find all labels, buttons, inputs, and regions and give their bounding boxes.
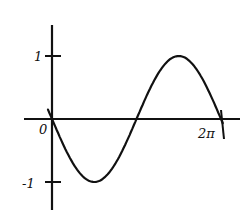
origin-label: 0 <box>39 122 47 137</box>
y-label-neg1: -1 <box>22 176 35 191</box>
x-label-2pi: 2π <box>197 126 215 141</box>
x-tick-2pi <box>221 110 224 139</box>
y-label-1: 1 <box>34 49 42 64</box>
sine-graph: 1 -1 0 2π <box>0 0 250 210</box>
